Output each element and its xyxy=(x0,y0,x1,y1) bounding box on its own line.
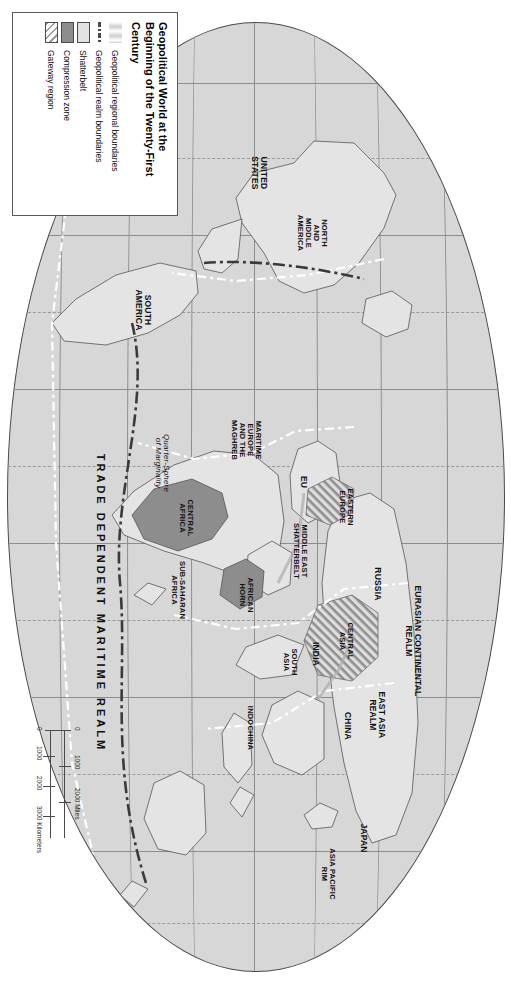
scale-tick xyxy=(59,766,71,767)
map-label-central-asia: CENTRAL ASIA xyxy=(338,615,354,667)
map-label-maritime-europe-and-the-maghreb: MARITIME EUROPE AND THE MAGHREB xyxy=(231,411,263,469)
scale-label-km-2000: 2000 xyxy=(36,776,43,790)
map-label-japan: JAPAN xyxy=(359,817,368,859)
land-madagascar xyxy=(134,583,166,605)
maritime-realm-boundary xyxy=(119,323,146,883)
legend-item-label: Shatterbelt xyxy=(78,50,88,91)
map-label-central-africa: CENTRAL AFRICA xyxy=(178,493,194,543)
map-label-indochina: INDOCHINA xyxy=(246,699,254,757)
map-label-african-horn: AFRICAN HORN xyxy=(238,571,254,619)
land-australia xyxy=(144,771,206,855)
page-canvas: UNITED STATES NORTH AND MIDDLE AMERICA S… xyxy=(0,0,511,991)
map-label-india: INDIA xyxy=(311,637,320,671)
realm-boundary-swatch-icon xyxy=(93,22,106,43)
land-japan xyxy=(304,803,338,829)
map-label-north-and-middle-america: NORTH AND MIDDLE AMERICA xyxy=(297,205,329,261)
scale-tick xyxy=(43,816,55,817)
legend-item-label: Geopolitical regional boundaries xyxy=(110,50,120,171)
land-philippines xyxy=(230,787,254,817)
legend-item-label: Geopolitical realm boundaries xyxy=(94,50,104,162)
scale-tick xyxy=(43,756,55,757)
map-label-eu: EU xyxy=(299,469,308,495)
map-label-south-asia: SOUTH ASIA xyxy=(282,643,298,681)
map-label-sub-saharan-africa: SUB-SAHARAN AFRICA xyxy=(170,557,186,623)
scale-axis-miles xyxy=(64,730,65,838)
map-label-russia: RUSSIA xyxy=(373,557,382,611)
map-label-united-states: UNITED STATES xyxy=(250,143,268,203)
map-annotation-quarter-sphere-of-marginality: Quarter-Sphere of Marginality xyxy=(153,421,170,505)
map-figure: UNITED STATES NORTH AND MIDDLE AMERICA S… xyxy=(0,0,511,991)
scale-tick xyxy=(45,730,71,731)
land-south-america xyxy=(52,263,198,345)
scale-tick xyxy=(43,786,55,787)
legend-item-label: Gateway region xyxy=(46,50,56,110)
land-east-asia xyxy=(262,691,324,775)
map-label-asia-pacific-rim: ASIA PACIFIC RIM xyxy=(320,843,336,905)
scale-label-miles-0: 0 xyxy=(74,727,81,731)
legend-item-gateway-region: Gateway region xyxy=(45,22,58,206)
scale-axis-kilometers xyxy=(50,730,51,838)
scale-label-km-unit: 3000 Kilometers xyxy=(36,806,43,853)
map-label-eurasian-continental-realm: EURASIAN CONTINENTAL REALM xyxy=(404,583,422,699)
gateway-region-swatch-icon xyxy=(45,22,58,43)
land-greenland xyxy=(362,291,412,337)
scale-label-km-0: 0 xyxy=(36,727,43,731)
map-legend: Geopolitical World at the Beginning of t… xyxy=(12,12,178,216)
map-label-east-asia-realm: EAST ASIA REALM xyxy=(368,687,386,743)
scanned-map-sheet: UNITED STATES NORTH AND MIDDLE AMERICA S… xyxy=(0,0,511,991)
scale-bar: 0 1000 2000 Miles 0 1000 2000 3000 Kilom… xyxy=(35,726,81,854)
legend-item-label: Compression zone xyxy=(62,50,72,121)
map-label-china: CHINA xyxy=(343,705,352,747)
legend-item-compression-zone: Compression zone xyxy=(61,22,74,206)
legend-title: Geopolitical World at the Beginning of t… xyxy=(129,22,169,206)
compression-zone-swatch-icon xyxy=(61,22,74,43)
map-label-middle-east-shatterbelt: MIDDLE EAST SHATTERBELT xyxy=(292,515,308,587)
scale-label-miles-1000: 1000 xyxy=(74,755,81,769)
map-label-trade-dependent-maritime-realm: TRADE DEPENDENT MARITIME REALM xyxy=(94,323,106,883)
map-label-south-america: SOUTH AMERICA xyxy=(134,279,152,341)
land-new-zealand xyxy=(120,881,148,907)
scale-label-km-1000: 1000 xyxy=(36,746,43,760)
legend-item-shatterbelt: Shatterbelt xyxy=(77,22,90,206)
legend-item-geopolitical-regional-boundaries: Geopolitical regional boundaries xyxy=(109,22,122,206)
map-label-eastern-europe: EASTERN EUROPE xyxy=(338,481,354,533)
shatterbelt-swatch-icon xyxy=(77,22,90,43)
scale-tick xyxy=(59,802,71,803)
land-central-america xyxy=(198,219,242,273)
scale-label-miles-unit: 2000 Miles xyxy=(74,788,81,819)
regional-boundary-swatch-icon xyxy=(109,22,122,43)
legend-item-geopolitical-realm-boundaries: Geopolitical realm boundaries xyxy=(93,22,106,206)
